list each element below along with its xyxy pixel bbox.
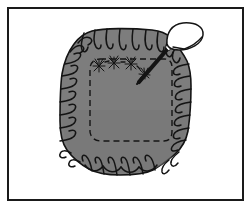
figure-canvas	[0, 0, 251, 213]
illustration-container: Line drawing of a gray gathered octagona…	[0, 0, 251, 213]
